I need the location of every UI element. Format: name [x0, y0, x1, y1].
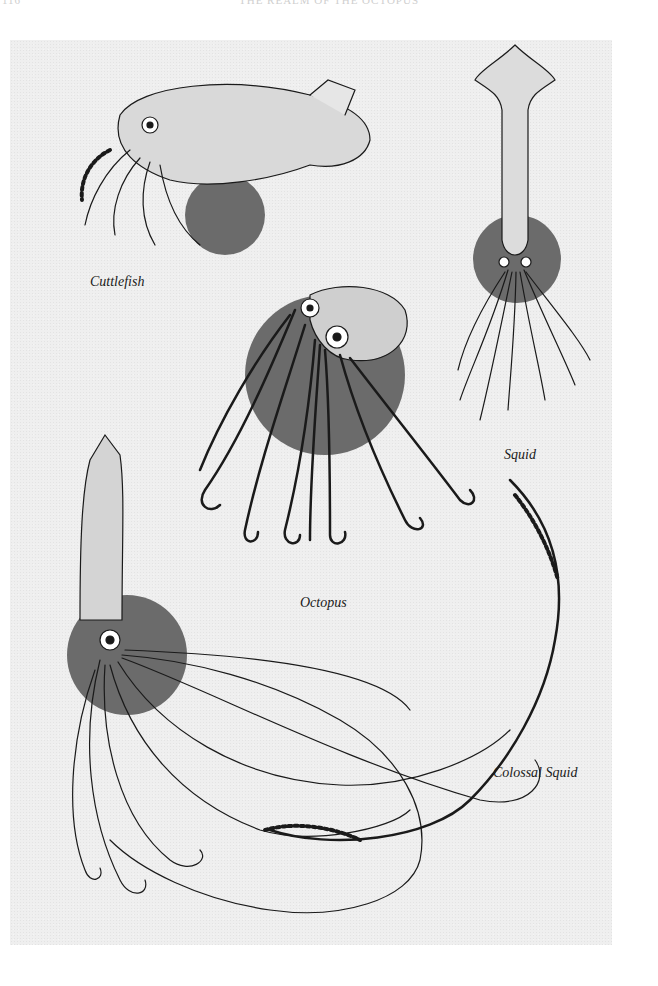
running-title: THE REALM OF THE OCTOPUS	[0, 0, 658, 6]
label-colossal-squid: Colossal Squid	[493, 765, 577, 781]
illustration-plate: Cuttlefish Squid Octopus Colossal Squid	[10, 40, 612, 945]
colossal-squid-illustration	[73, 435, 559, 913]
label-squid: Squid	[504, 447, 536, 463]
squid-illustration	[458, 45, 590, 420]
page-header: 116 THE REALM OF THE OCTOPUS	[0, 0, 658, 8]
label-cuttlefish: Cuttlefish	[90, 274, 144, 290]
label-octopus: Octopus	[300, 595, 347, 611]
cuttlefish-illustration	[82, 80, 370, 245]
octopus-illustration	[200, 287, 474, 544]
illustrations-svg	[10, 40, 612, 945]
